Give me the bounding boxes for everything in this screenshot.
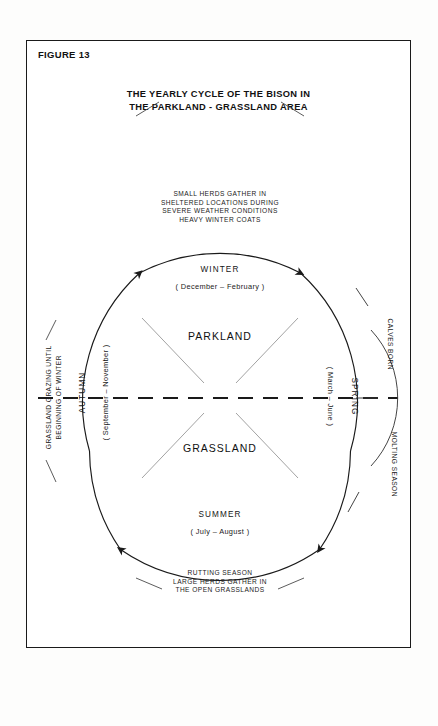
- season-months-spring-wrap: ( March – June ): [270, 392, 390, 404]
- season-months-summer: ( July – August ): [120, 527, 320, 536]
- ray-upper-left: [142, 318, 204, 383]
- annotation-top-line-4: HEAVY WINTER COATS: [118, 216, 322, 225]
- annotation-right-calves-wrap: CALVES BORN: [330, 340, 438, 349]
- season-months-winter: ( December – February ): [120, 282, 320, 291]
- annotation-bottom-line-2: LARGE HERDS GATHER IN: [118, 578, 322, 587]
- top-leader-left: [136, 102, 159, 116]
- top-annotation-leaders: [136, 102, 304, 116]
- annotation-bottom: RUTTING SEASON LARGE HERDS GATHER IN THE…: [118, 569, 322, 595]
- annotation-right-molting-wrap: MOLTING SEASON: [334, 460, 438, 469]
- annotation-bottom-line-1: RUTTING SEASON: [118, 569, 322, 578]
- annotation-top: SMALL HERDS GATHER IN SHELTERED LOCATION…: [118, 190, 322, 224]
- zone-label-parkland: PARKLAND: [120, 330, 320, 342]
- right-leader-calves: [356, 288, 368, 306]
- annotation-left-line-2: BEGINNING OF WINTER: [55, 317, 64, 477]
- annotation-bottom-line-3: THE OPEN GRASSLANDS: [118, 586, 322, 595]
- annotation-top-line-1: SMALL HERDS GATHER IN: [118, 190, 322, 199]
- season-months-spring: ( March – June ): [326, 337, 335, 457]
- cycle-arc-left-up-head: [83, 273, 140, 451]
- annotation-top-line-2: SHELTERED LOCATIONS DURING: [118, 199, 322, 208]
- annotation-top-line-3: SEVERE WEATHER CONDITIONS: [118, 207, 322, 216]
- top-leader-right: [281, 102, 304, 116]
- annotation-left-line-2-wrap: BEGINNING OF WINTER: [0, 393, 139, 402]
- zone-label-grassland: GRASSLAND: [120, 442, 320, 454]
- right-leader-molting: [348, 492, 359, 512]
- annotation-right-molting-season: MOLTING SEASON: [390, 404, 399, 524]
- cycle-arc-left-up: [90, 451, 121, 550]
- season-label-summer: SUMMER: [120, 510, 320, 519]
- ray-upper-right: [236, 318, 298, 383]
- annotation-right-calves-born: CALVES BORN: [386, 284, 395, 404]
- season-label-winter: WINTER: [120, 265, 320, 274]
